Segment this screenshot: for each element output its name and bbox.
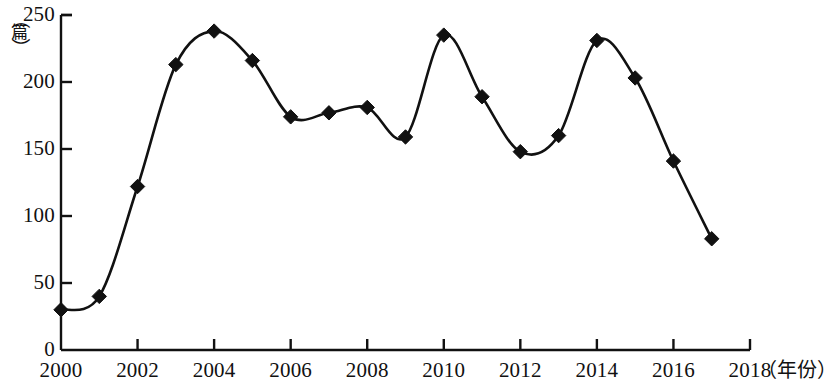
x-axis-tick-label: 2000: [21, 360, 101, 381]
data-point-marker: [54, 303, 68, 317]
x-axis-tick-label: 2006: [251, 360, 331, 381]
y-axis-tick-label: 0: [0, 339, 55, 360]
y-axis-tick-label: 200: [0, 71, 55, 92]
x-axis-tick-label: 2008: [327, 360, 407, 381]
data-point-marker: [322, 106, 336, 120]
x-axis-tick-label: 2010: [404, 360, 484, 381]
data-point-marker: [628, 71, 642, 85]
x-axis-tick-label: 2002: [98, 360, 178, 381]
data-point-marker: [666, 154, 680, 168]
chart-axes: [61, 15, 750, 350]
x-axis-tick-label: 2004: [174, 360, 254, 381]
line-chart: 050100150200250 200020022004200620082010…: [0, 0, 838, 385]
y-unit-open-paren: （: [14, 4, 24, 34]
x-axis-tick-label: 2014: [557, 360, 637, 381]
data-point-marker: [705, 232, 719, 246]
x-axis-tick-label: 2012: [480, 360, 560, 381]
data-point-marker: [130, 179, 144, 193]
y-axis-tick-label: 50: [0, 272, 55, 293]
data-series-line: [61, 31, 712, 310]
y-axis-tick-label: 150: [0, 138, 55, 159]
y-unit-close-paren: ）: [14, 32, 24, 62]
y-axis-unit-label: （ 篇 ）: [4, 14, 34, 52]
y-axis-ticks: [61, 15, 72, 283]
x-axis-ticks: [138, 339, 674, 350]
data-point-marker: [207, 24, 221, 38]
data-point-marker: [398, 130, 412, 144]
x-axis-unit-label: （年份）: [757, 360, 837, 380]
data-point-marker: [475, 90, 489, 104]
y-axis-tick-label: 100: [0, 205, 55, 226]
data-point-markers: [54, 24, 719, 317]
x-axis-tick-label: 2016: [633, 360, 713, 381]
chart-plot-area: [0, 0, 838, 385]
data-point-marker: [169, 57, 183, 71]
